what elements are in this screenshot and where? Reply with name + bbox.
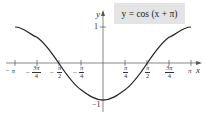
y-tick-label-neg1: −1 (92, 101, 101, 109)
x-tick-label-pi-4: π4 (123, 65, 128, 79)
x-tick-label-neg-pi-4: π4 (79, 65, 84, 79)
equation-text: y = cos (x + π) (122, 9, 178, 19)
y-tick-label-1: 1 (94, 23, 98, 31)
minus-sign: − (50, 69, 54, 77)
x-tick-label-neg-pi-2: π2 (57, 65, 62, 79)
x-tick-label-neg-3pi-4: 3π4 (32, 65, 41, 79)
x-tick-label-neg-pi: − π (5, 68, 15, 75)
minus-sign: − (26, 69, 30, 77)
x-tick-label-3pi-4: 3π4 (165, 65, 174, 79)
minus-sign: − (73, 69, 77, 77)
x-tick-label-pi: π (188, 68, 192, 75)
y-axis-arrow-icon (101, 10, 105, 16)
x-axis-label: x (196, 66, 200, 75)
x-tick-label-pi-2: π2 (145, 65, 150, 79)
equation-label: y = cos (x + π) (114, 3, 185, 24)
y-axis-label: y (96, 10, 100, 19)
